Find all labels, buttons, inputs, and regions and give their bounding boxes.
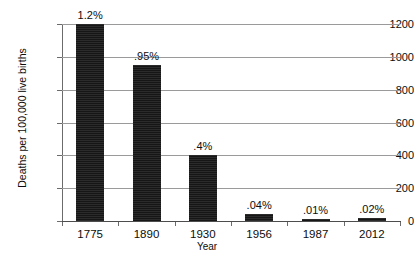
gridline xyxy=(62,188,400,189)
bar-value-label: 1.2% xyxy=(50,10,130,21)
bar-value-label: .95% xyxy=(107,51,187,62)
x-axis-tick-mark xyxy=(231,222,232,226)
gridline xyxy=(62,90,400,91)
x-axis-tick-mark xyxy=(400,222,401,226)
x-axis-tick-label: 2012 xyxy=(332,228,412,241)
bar-value-label: .4% xyxy=(163,141,243,152)
y-axis-title: Deaths per 100,000 live births xyxy=(16,8,28,228)
x-axis-tick-mark xyxy=(287,222,288,226)
gridline xyxy=(62,24,400,25)
gridline xyxy=(62,123,400,124)
bar-value-label: .02% xyxy=(332,204,412,215)
x-axis-tick-mark xyxy=(118,222,119,226)
bar[interactable] xyxy=(189,155,217,221)
x-axis-tick-mark xyxy=(175,222,176,226)
bar[interactable] xyxy=(133,65,161,221)
gridline xyxy=(62,155,400,156)
bar-chart: Deaths per 100,000 live births 020040060… xyxy=(0,0,414,256)
x-axis-tick-mark xyxy=(62,222,63,226)
bar[interactable] xyxy=(76,24,104,221)
x-axis-tick-mark xyxy=(344,222,345,226)
x-axis-title: Year xyxy=(0,241,414,252)
